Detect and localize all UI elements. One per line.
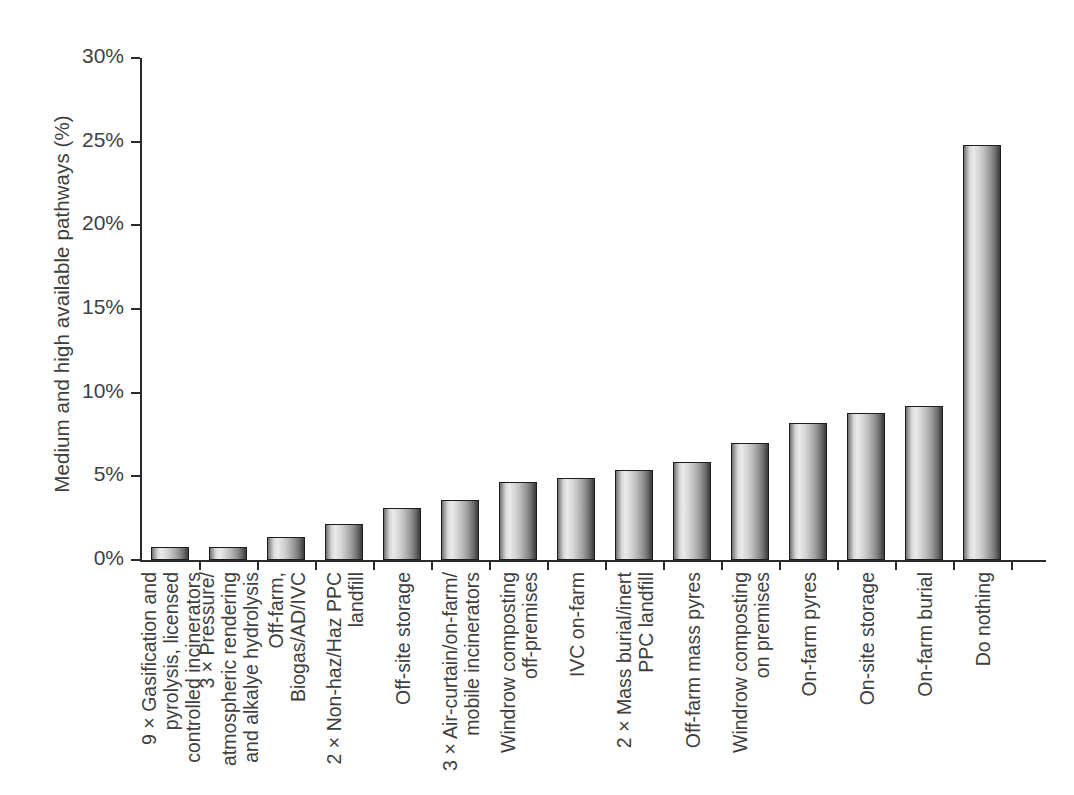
bar: [209, 547, 247, 560]
x-tick: [837, 560, 839, 570]
x-axis-label: 2 × Non-haz/Haz PPC landfill: [323, 572, 367, 795]
x-axis-label: Windrow composting on premises: [729, 572, 773, 795]
bar: [847, 413, 885, 560]
x-tick: [605, 560, 607, 570]
y-tick-label: 5%: [94, 462, 124, 486]
x-axis-label: Off-site storage: [392, 572, 414, 795]
plot-area: 0%5%10%15%20%25%30%: [140, 58, 1046, 560]
x-tick: [315, 560, 317, 570]
x-tick: [373, 560, 375, 570]
bar: [557, 478, 595, 560]
y-axis-line: [140, 58, 142, 560]
y-tick: 15%: [131, 308, 140, 310]
x-tick: [489, 560, 491, 570]
bar-chart: Medium and high available pathways (%) 0…: [0, 0, 1074, 795]
x-axis-label: 3 × Pressure/ atmospheric rendering and …: [196, 572, 262, 795]
x-axis-label: Off-farm, Biogas/AD/IVC: [265, 572, 309, 795]
bar: [383, 508, 421, 560]
x-tick: [721, 560, 723, 570]
x-axis-label: 9 × Gasification and pyrolysis, licensed…: [138, 572, 204, 795]
y-tick: 0%: [131, 559, 140, 561]
bar: [905, 406, 943, 560]
bar: [499, 482, 537, 560]
bar: [963, 145, 1001, 560]
bar: [325, 524, 363, 560]
x-tick: [257, 560, 259, 570]
bar: [441, 500, 479, 560]
y-tick-label: 15%: [82, 295, 124, 319]
y-tick-label: 30%: [82, 44, 124, 68]
y-tick: 30%: [131, 57, 140, 59]
x-axis-label: On-farm burial: [914, 572, 936, 795]
bar: [731, 443, 769, 560]
y-axis-title: Medium and high available pathways (%): [50, 54, 74, 554]
x-axis-label: On-farm pyres: [798, 572, 820, 795]
x-tick: [663, 560, 665, 570]
bar: [673, 462, 711, 560]
x-axis-label: Do nothing: [972, 572, 994, 795]
x-tick: [953, 560, 955, 570]
y-tick-label: 25%: [82, 128, 124, 152]
x-tick: [431, 560, 433, 570]
x-tick: [199, 560, 201, 570]
y-tick-label: 20%: [82, 211, 124, 235]
bar: [151, 547, 189, 560]
x-axis-label: Windrow composting off-premises: [497, 572, 541, 795]
x-tick: [1011, 560, 1013, 570]
bar: [267, 537, 305, 560]
x-axis-label: Off-farm mass pyres: [682, 572, 704, 795]
bar: [789, 423, 827, 560]
x-tick: [547, 560, 549, 570]
x-axis-label: 3 × Air-curtain/on-farm/ mobile incinera…: [439, 572, 483, 795]
x-tick: [895, 560, 897, 570]
y-tick: 5%: [131, 475, 140, 477]
x-axis-line: [140, 560, 1046, 562]
y-tick: 10%: [131, 392, 140, 394]
x-axis-label: 2 × Mass burial/inert PPC landfill: [613, 572, 657, 795]
y-tick: 20%: [131, 224, 140, 226]
y-tick-label: 0%: [94, 546, 124, 570]
x-tick: [779, 560, 781, 570]
x-axis-label: IVC on-farm: [566, 572, 588, 795]
y-tick-label: 10%: [82, 379, 124, 403]
bar: [615, 470, 653, 560]
y-tick: 25%: [131, 141, 140, 143]
x-axis-label: On-site storage: [856, 572, 878, 795]
